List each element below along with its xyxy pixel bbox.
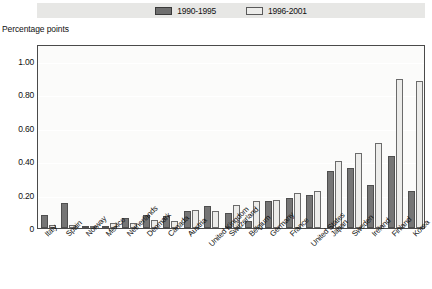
legend-swatch-light-icon [246,7,263,15]
bar-group [225,46,241,228]
bar-group [408,46,424,228]
bar-group [306,46,322,228]
legend-swatch-dark-icon [155,7,172,15]
bar-1990-1995 [143,215,150,228]
bar-1996-2001 [253,201,260,228]
bar-1990-1995 [408,191,415,228]
bar-group [347,46,363,228]
bar-1990-1995 [61,203,68,228]
bar-1990-1995 [245,221,252,228]
bar-1996-2001 [375,143,382,228]
legend-entry-1996-2001: 1996-2001 [246,6,307,16]
bar-group [102,46,118,228]
bar-group [82,46,98,228]
bar-1996-2001 [69,225,76,228]
legend-entry-1990-1995: 1990-1995 [155,6,216,16]
bar-group [367,46,383,228]
bar-1990-1995 [102,226,109,228]
bar-1990-1995 [82,226,89,228]
bar-1990-1995 [204,206,211,228]
bar-1996-2001 [171,221,178,228]
bar-group [184,46,200,228]
bar-1990-1995 [306,195,313,228]
bar-1996-2001 [416,81,423,228]
bar-1990-1995 [184,211,191,228]
bar-1996-2001 [314,191,321,228]
chart-legend: 1990-1995 1996-2001 [37,3,425,18]
bar-group [41,46,57,228]
y-axis-tick: 0.40 [1,157,34,167]
bar-1996-2001 [212,211,219,228]
bar-1990-1995 [286,198,293,228]
bar-group [204,46,220,228]
bar-1996-2001 [335,161,342,228]
bar-group [388,46,404,228]
plot-area [37,45,425,229]
bar-1996-2001 [49,225,56,228]
y-axis-tick-labels: 00.200.400.600.801.00 [0,0,34,289]
bar-1990-1995 [122,218,129,228]
bar-group [265,46,281,228]
bar-group [327,46,343,228]
bar-1996-2001 [151,220,158,228]
y-axis-tick: 0.60 [1,124,34,134]
y-axis-tick: 0 [1,224,34,234]
bar-group [143,46,159,228]
bars-layer [38,46,424,228]
y-axis-tick: 1.00 [1,57,34,67]
bar-1996-2001 [355,153,362,228]
bar-1990-1995 [347,168,354,228]
bar-1996-2001 [192,210,199,228]
bar-group [61,46,77,228]
bar-1996-2001 [294,193,301,228]
bar-1996-2001 [90,226,97,228]
y-axis-tick: 0.80 [1,90,34,100]
bar-group [122,46,138,228]
legend-label-1996-2001: 1996-2001 [268,6,307,16]
bar-1990-1995 [163,216,170,228]
bar-1990-1995 [265,201,272,228]
bar-1990-1995 [225,213,232,228]
bar-1996-2001 [233,205,240,228]
bar-group [286,46,302,228]
bar-1996-2001 [396,79,403,228]
y-axis-tick: 0.20 [1,191,34,201]
bar-1996-2001 [110,223,117,228]
legend-label-1990-1995: 1990-1995 [177,6,216,16]
bar-1990-1995 [388,156,395,228]
bar-1990-1995 [367,185,374,228]
bar-group [163,46,179,228]
bar-group [245,46,261,228]
bar-1990-1995 [327,171,334,228]
bar-1996-2001 [273,200,280,228]
bar-1990-1995 [41,215,48,228]
bar-1996-2001 [130,223,137,228]
